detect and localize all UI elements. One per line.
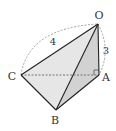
vertex-label-b: B [51, 114, 59, 127]
vertex-label-c: C [8, 70, 16, 83]
dimension-label-co: 4 [50, 36, 56, 47]
dimension-label-oa: 3 [103, 45, 109, 56]
vertex-label-o: O [94, 9, 103, 22]
vertex-label-a: A [101, 71, 111, 84]
tetrahedron-diagram: O A C B 4 3 [0, 0, 116, 131]
